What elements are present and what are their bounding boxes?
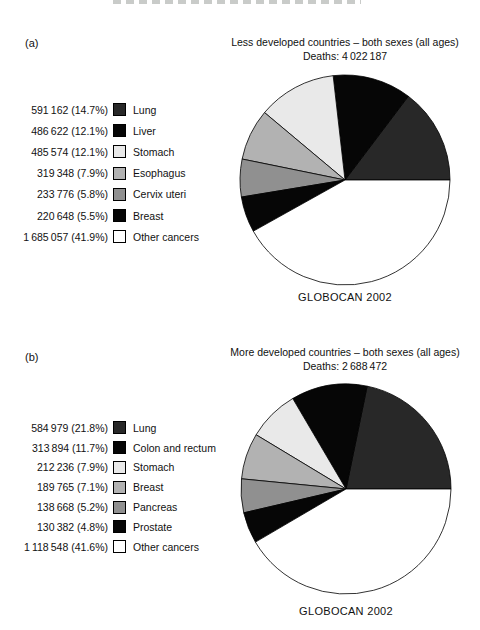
chart-title: More developed countries – both sexes (a… (215, 345, 475, 359)
legend-row-other-cancers: 1 118 548 (41.6%)Other cancers (18, 537, 216, 557)
legend-label: Other cancers (133, 541, 199, 553)
legend-value: 233 776 (5.8%) (18, 188, 108, 200)
legend-swatch-breast (113, 481, 126, 494)
legend-row-prostate: 130 382 (4.8%)Prostate (18, 517, 216, 537)
legend-row-esophagus: 319 348 (7.9%)Esophagus (18, 163, 199, 184)
legend-label: Colon and rectum (133, 442, 216, 454)
legend-value: 1 685 057 (41.9%) (18, 231, 108, 243)
legend-value: 485 574 (12.1%) (18, 146, 108, 158)
panel-b-label: (b) (25, 351, 38, 363)
legend-row-liver: 486 622 (12.1%)Liver (18, 120, 199, 141)
legend-label: Stomach (133, 461, 174, 473)
legend-value: 212 236 (7.9%) (18, 461, 108, 473)
legend-swatch-liver (113, 124, 126, 137)
legend-label: Breast (133, 481, 163, 493)
chart-title: Less developed countries – both sexes (a… (215, 35, 475, 49)
legend-value: 313 894 (11.7%) (18, 442, 108, 454)
legend-row-lung: 584 979 (21.8%)Lung (18, 418, 216, 438)
legend-swatch-lung (113, 421, 126, 434)
legend-swatch-breast (113, 209, 126, 222)
legend-swatch-lung (113, 103, 126, 116)
legend-swatch-cervix-uteri (113, 188, 126, 201)
cropped-text-fragment (113, 0, 361, 4)
legend-row-breast: 189 765 (7.1%)Breast (18, 477, 216, 497)
legend-value: 130 382 (4.8%) (18, 521, 108, 533)
legend-value: 1 118 548 (41.6%) (18, 541, 108, 553)
legend-value: 220 648 (5.5%) (18, 210, 108, 222)
legend-value: 591 162 (14.7%) (18, 104, 108, 116)
pie-chart-less-developed (238, 73, 452, 287)
legend-row-colon-and-rectum: 313 894 (11.7%)Colon and rectum (18, 438, 216, 458)
source-caption: GLOBOCAN 2002 (238, 291, 452, 303)
legend-swatch-other-cancers (113, 540, 126, 553)
chart-subtitle-deaths: Deaths: 4 022 187 (215, 49, 475, 63)
legend-label: Lung (133, 422, 156, 434)
legend-label: Other cancers (133, 231, 199, 243)
legend-swatch-stomach (113, 145, 126, 158)
legend-row-breast: 220 648 (5.5%)Breast (18, 205, 199, 226)
legend-label: Pancreas (133, 501, 177, 513)
legend-row-cervix-uteri: 233 776 (5.8%)Cervix uteri (18, 184, 199, 205)
legend-label: Prostate (133, 521, 172, 533)
legend-row-lung: 591 162 (14.7%)Lung (18, 99, 199, 120)
legend-value: 189 765 (7.1%) (18, 481, 108, 493)
legend-swatch-prostate (113, 520, 126, 533)
legend-swatch-stomach (113, 461, 126, 474)
panel-a-label: (a) (25, 37, 38, 49)
legend-label: Cervix uteri (133, 188, 186, 200)
pie-chart-more-developed (239, 382, 453, 596)
legend-value: 319 348 (7.9%) (18, 167, 108, 179)
legend-swatch-esophagus (113, 167, 126, 180)
legend-value: 584 979 (21.8%) (18, 422, 108, 434)
legend: 591 162 (14.7%)Lung486 622 (12.1%)Liver4… (18, 99, 199, 247)
legend-label: Breast (133, 210, 163, 222)
legend-label: Esophagus (133, 167, 186, 179)
legend-label: Liver (133, 125, 156, 137)
legend-label: Stomach (133, 146, 174, 158)
legend: 584 979 (21.8%)Lung313 894 (11.7%)Colon … (18, 418, 216, 557)
legend-row-stomach: 485 574 (12.1%)Stomach (18, 141, 199, 162)
legend-swatch-colon-and-rectum (113, 441, 126, 454)
panel-a-titles: Less developed countries – both sexes (a… (215, 35, 475, 63)
legend-row-stomach: 212 236 (7.9%)Stomach (18, 458, 216, 478)
legend-swatch-pancreas (113, 501, 126, 514)
source-caption: GLOBOCAN 2002 (239, 605, 453, 617)
panel-b-titles: More developed countries – both sexes (a… (215, 345, 475, 373)
chart-subtitle-deaths: Deaths: 2 688 472 (215, 359, 475, 373)
legend-row-pancreas: 138 668 (5.2%)Pancreas (18, 497, 216, 517)
legend-row-other-cancers: 1 685 057 (41.9%)Other cancers (18, 226, 199, 247)
legend-label: Lung (133, 104, 156, 116)
legend-value: 138 668 (5.2%) (18, 501, 108, 513)
legend-swatch-other-cancers (113, 230, 126, 243)
legend-value: 486 622 (12.1%) (18, 125, 108, 137)
